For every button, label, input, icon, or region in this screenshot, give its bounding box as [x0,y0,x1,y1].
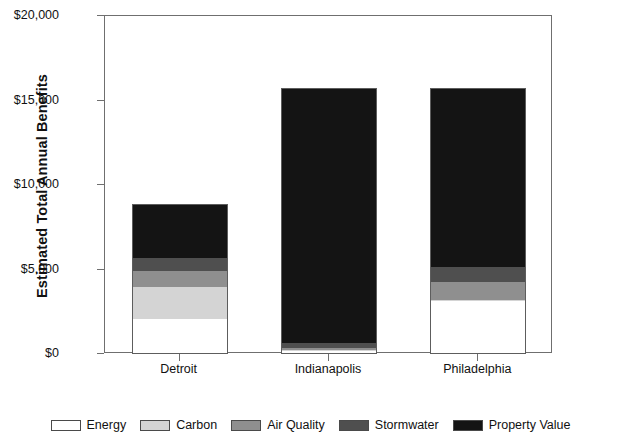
y-axis-tick-label: $15,000 [0,93,59,107]
bar-segment-air-quality [431,282,525,300]
x-axis-tick-label: Philadelphia [397,362,557,376]
legend-swatch-icon [339,420,369,431]
legend-item: Carbon [140,418,217,432]
x-axis-tick-label: Indianapolis [248,362,408,376]
y-axis-tick-label: $0 [0,346,59,360]
bars-container [105,16,553,354]
legend-label: Property Value [489,418,571,432]
legend-swatch-icon [453,420,483,431]
x-axis-tick-label: Detroit [99,362,259,376]
y-axis-tick-mark [97,269,104,270]
y-axis-tick-mark [97,353,104,354]
bar-segment-energy [431,301,525,353]
y-axis-tick-mark [97,100,104,101]
bar-segment-energy [133,319,227,353]
chart-figure: Estimated Total Annual Benefits $0$5,000… [0,0,621,442]
legend-swatch-icon [140,420,170,431]
legend-label: Carbon [176,418,217,432]
legend-label: Stormwater [375,418,439,432]
legend-item: Property Value [453,418,571,432]
bar-segment-property-value [282,89,376,343]
legend-swatch-icon [231,420,261,431]
y-axis-tick-label: $20,000 [0,8,59,22]
y-axis-tick-label: $5,000 [0,262,59,276]
bar-segment-energy [282,351,376,353]
stacked-bar [281,88,377,354]
x-axis-tick-mark [477,354,478,361]
y-axis-tick-mark [97,15,104,16]
bar-segment-property-value [431,89,525,268]
bar-segment-stormwater [431,267,525,282]
legend-swatch-icon [51,420,81,431]
stacked-bar [132,204,228,354]
legend-label: Energy [87,418,127,432]
y-axis-tick-mark [97,184,104,185]
bar-segment-carbon [133,287,227,319]
stacked-bar [430,88,526,354]
legend-item: Air Quality [231,418,325,432]
legend-item: Energy [51,418,127,432]
bar-segment-property-value [133,205,227,258]
x-axis-tick-mark [328,354,329,361]
legend-label: Air Quality [267,418,325,432]
y-axis-tick-label: $10,000 [0,177,59,191]
bar-segment-stormwater [133,258,227,271]
x-axis-tick-mark [179,354,180,361]
chart-legend: EnergyCarbonAir QualityStormwaterPropert… [0,418,621,432]
legend-item: Stormwater [339,418,439,432]
plot-area [104,15,552,353]
bar-segment-air-quality [133,271,227,287]
